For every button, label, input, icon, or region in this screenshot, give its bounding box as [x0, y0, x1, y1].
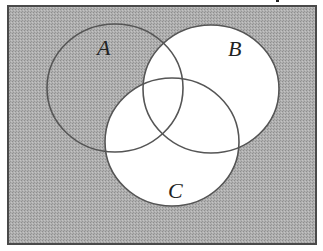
venn-diagram: A B C — [0, 0, 323, 251]
set-b-label: B — [228, 36, 241, 61]
set-a-label: A — [95, 35, 111, 60]
set-c-label: C — [168, 178, 183, 203]
